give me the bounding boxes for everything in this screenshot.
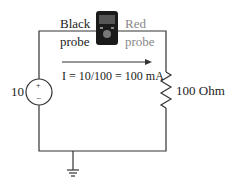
black-probe-label-1: Black xyxy=(60,17,90,30)
current-equation: I = 10/100 = 100 mA xyxy=(62,70,164,82)
black-probe-label-2: probe xyxy=(60,35,90,48)
wire-bottom xyxy=(39,105,166,151)
minus-sign: − xyxy=(36,94,41,103)
resistor-value: 100 Ohm xyxy=(176,84,225,97)
source-value: 10 xyxy=(11,85,24,98)
plus-sign: + xyxy=(36,82,41,90)
multimeter-icon xyxy=(96,11,118,45)
red-probe-label-1: Red xyxy=(125,17,146,30)
red-probe-label-2: probe xyxy=(125,35,155,48)
